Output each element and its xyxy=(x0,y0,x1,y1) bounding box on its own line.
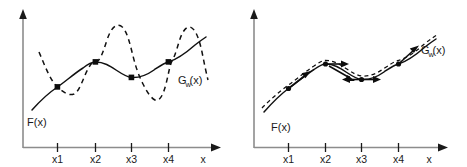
right-y-axis xyxy=(250,9,258,148)
right-x-axis xyxy=(254,144,448,152)
left-tick-label-x4: x4 xyxy=(163,153,174,165)
tangent-arrow-x1 xyxy=(289,71,312,89)
left-panel: F(x) G w (x) x1 x2 x3 x4 x xyxy=(19,9,221,165)
tangent-arrow-x2b xyxy=(329,66,355,81)
left-x-axis xyxy=(23,144,221,152)
right-panel: F(x) G w (x) x1 x2 x3 x4 x xyxy=(250,9,448,165)
tangent-arrow-x3 xyxy=(362,76,382,83)
right-gw-label-tail: (x) xyxy=(433,44,446,56)
right-tick-label-x1: x1 xyxy=(283,153,294,165)
right-gw-label: G w (x) xyxy=(421,44,445,59)
figure-canvas: F(x) G w (x) x1 x2 x3 x4 x xyxy=(0,0,467,167)
left-gw-label: G w (x) xyxy=(178,74,202,89)
left-tick-label-x2: x2 xyxy=(90,153,101,165)
left-tick-label-x3: x3 xyxy=(126,153,137,165)
right-x-axis-label: x xyxy=(426,153,432,165)
left-gw-curve xyxy=(39,25,208,100)
left-x-axis-label: x xyxy=(200,153,206,165)
left-marked-points xyxy=(55,59,172,90)
right-tick-label-x4: x4 xyxy=(393,153,404,165)
tangent-arrow-x3-left xyxy=(342,76,362,83)
left-tick-label-x1: x1 xyxy=(52,153,63,165)
right-f-curve xyxy=(264,39,436,112)
left-f-label: F(x) xyxy=(27,116,47,128)
right-tangent-arrows xyxy=(289,45,420,88)
right-tick-label-x2: x2 xyxy=(320,153,331,165)
right-gw-curve xyxy=(262,36,436,109)
right-f-label: F(x) xyxy=(271,121,291,133)
left-gw-label-tail: (x) xyxy=(190,74,203,86)
left-y-axis xyxy=(19,9,27,148)
approximation-figure: F(x) G w (x) x1 x2 x3 x4 x xyxy=(0,0,467,167)
right-tick-label-x3: x3 xyxy=(356,153,367,165)
